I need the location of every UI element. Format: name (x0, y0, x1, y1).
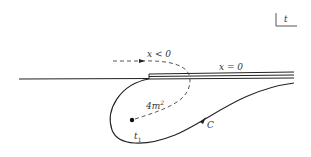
label-x-negative: x < 0 (147, 49, 171, 59)
real-axis (19, 79, 149, 80)
branch-cut (149, 72, 294, 79)
plane-indicator: t (276, 13, 297, 26)
label-x-zero: x = 0 (219, 62, 243, 72)
label-contour: C (207, 120, 214, 130)
dashed-arrow-icon (139, 59, 145, 63)
contour-c (110, 79, 294, 143)
contour-diagram: t x < 0 x = 0 4m2 t1 C (0, 0, 311, 157)
plane-label: t (284, 14, 288, 24)
point-t1 (130, 118, 134, 122)
contour-arrow-icon (200, 117, 206, 124)
label-point: t1 (134, 131, 141, 143)
label-threshold: 4m2 (145, 99, 164, 111)
